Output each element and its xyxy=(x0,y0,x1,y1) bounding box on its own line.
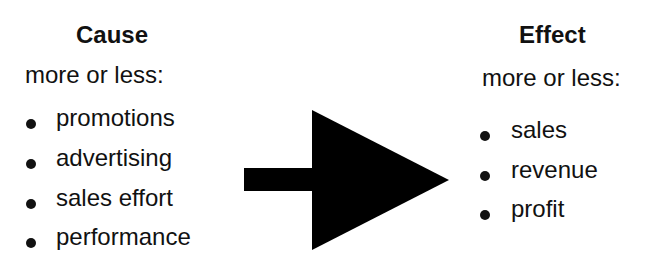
arrow-head xyxy=(312,110,449,250)
effect-subtitle: more or less: xyxy=(482,66,621,90)
bullet-icon xyxy=(480,171,490,181)
effect-title: Effect xyxy=(519,23,586,47)
bullet-icon xyxy=(480,210,490,220)
effect-item-label: sales xyxy=(511,118,567,142)
effect-item-label: profit xyxy=(511,197,564,221)
effect-item-label: revenue xyxy=(511,158,598,182)
bullet-icon xyxy=(480,131,490,141)
arrow-shaft xyxy=(244,168,316,191)
